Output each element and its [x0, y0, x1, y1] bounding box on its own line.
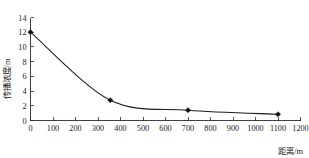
data-point-marker: [275, 112, 280, 117]
x-tick-label: 400: [114, 124, 126, 133]
y-axis-title: 传播浓度/m: [0, 31, 12, 127]
data-series-line: [31, 32, 279, 114]
x-axis-title: 距离/m: [278, 144, 303, 156]
x-tick-label: 700: [182, 124, 194, 133]
data-point-marker: [108, 98, 113, 103]
y-tick-label: 8: [22, 58, 26, 67]
y-tick-label: 0: [22, 117, 26, 126]
x-tick-label: 200: [69, 124, 81, 133]
x-tick-label: 300: [92, 124, 104, 133]
y-tick-label: 10: [18, 43, 26, 52]
y-axis-tick-labels: 02468101214: [18, 14, 26, 126]
x-tick-label: 1200: [292, 124, 308, 133]
data-point-markers: [28, 30, 281, 117]
data-point-marker: [185, 108, 190, 113]
y-tick-label: 14: [18, 14, 26, 23]
x-tick-label: 100: [47, 124, 59, 133]
y-tick-label: 6: [22, 72, 26, 81]
y-tick-label: 2: [22, 102, 26, 111]
chart-plot-area: 02468101214 0100200300400500600700800900…: [0, 0, 309, 158]
y-tick-label: 4: [22, 87, 26, 96]
x-tick-label: 0: [28, 124, 32, 133]
x-axis-ticks: [31, 117, 301, 120]
x-tick-label: 1000: [247, 124, 263, 133]
x-tick-label: 900: [227, 124, 239, 133]
x-tick-label: 1100: [270, 124, 286, 133]
chart-figure: 02468101214 0100200300400500600700800900…: [0, 0, 309, 158]
x-tick-label: 600: [159, 124, 171, 133]
x-tick-label: 800: [204, 124, 216, 133]
y-tick-label: 12: [18, 28, 26, 37]
x-tick-label: 500: [137, 124, 149, 133]
x-axis-tick-labels: 0100200300400500600700800900100011001200: [28, 124, 308, 133]
